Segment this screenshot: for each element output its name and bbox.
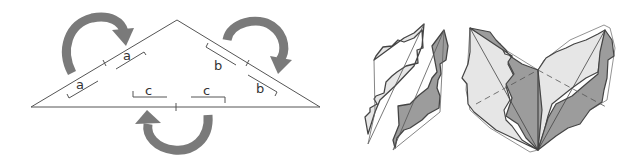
rotate-bottom-arrow-icon — [135, 110, 208, 150]
bracket-a-upper — [116, 52, 146, 69]
label-b-lower: b — [256, 81, 264, 96]
assembled-tiling-svg — [460, 0, 635, 163]
triangle-svg: a a b b c c — [0, 0, 330, 163]
label-c-left: c — [145, 83, 152, 98]
separated-tiles-svg — [340, 0, 465, 163]
rotate-right-arrow-icon — [227, 21, 292, 74]
triangle-rotation-diagram: a a b b c c — [0, 0, 330, 163]
label-a-upper: a — [123, 48, 131, 63]
label-a-lower: a — [76, 77, 84, 92]
label-c-right: c — [203, 83, 210, 98]
label-b-upper: b — [214, 58, 222, 73]
separated-tiles-diagram — [340, 0, 465, 163]
assembled-tiling-diagram — [460, 0, 635, 163]
